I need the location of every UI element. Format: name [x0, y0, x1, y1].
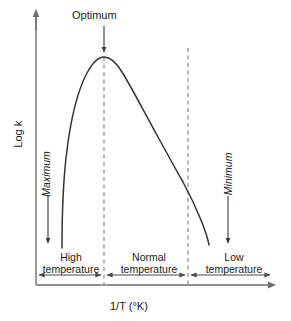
- region-label-high-line2: temperature: [38, 264, 104, 276]
- x-axis-arrowhead: [268, 282, 276, 289]
- minimum-annotation: Minimum: [223, 144, 235, 204]
- maximum-annotation: Maximum: [41, 144, 53, 204]
- region-label-low-line2: temperature: [196, 264, 272, 276]
- region-label-low-line1: Low: [196, 252, 272, 264]
- region-label-high-temperature: High temperature: [38, 252, 104, 276]
- region-label-low-temperature: Low temperature: [196, 252, 272, 276]
- region-label-normal-temperature: Normal temperature: [110, 252, 188, 276]
- y-axis-arrowhead: [33, 9, 40, 17]
- optimum-label: Optimum: [72, 9, 117, 21]
- rate-curve: [62, 57, 209, 248]
- chart-figure: Optimum Log k 1/T (°K) Maximum Minimum H…: [0, 0, 291, 321]
- region-label-normal-line1: Normal: [110, 252, 188, 264]
- region-label-high-line1: High: [38, 252, 104, 264]
- region-label-normal-line2: temperature: [110, 264, 188, 276]
- x-axis-label: 1/T (°K): [110, 300, 148, 312]
- y-axis-label: Log k: [12, 104, 24, 164]
